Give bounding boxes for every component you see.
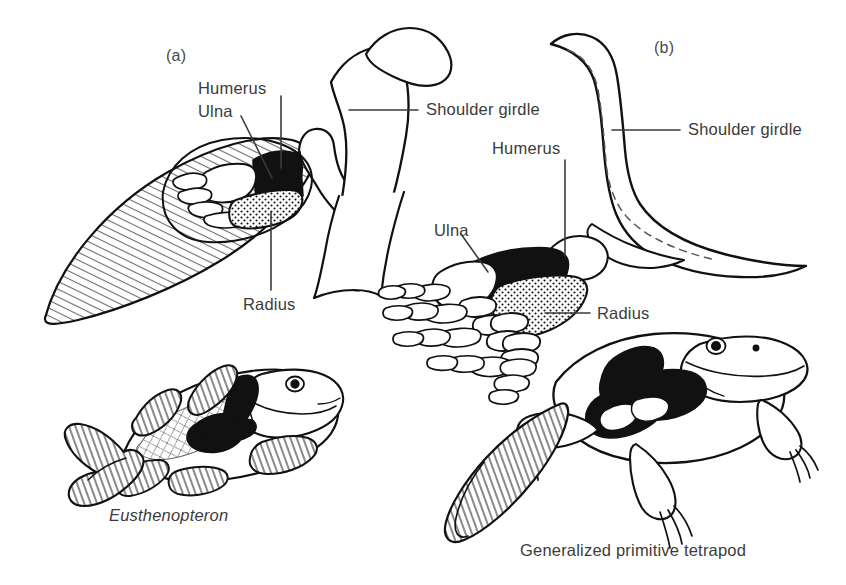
panel-letter-b: (b) bbox=[654, 40, 674, 56]
figure-root: (a) (b) Humerus Ulna Radius Shoulder gir… bbox=[0, 0, 846, 585]
eusthenopteron-whole-body bbox=[65, 365, 343, 506]
label-ulna-b: Ulna bbox=[434, 222, 469, 239]
label-shoulder-girdle-b: Shoulder girdle bbox=[688, 121, 802, 138]
label-shoulder-girdle-a: Shoulder girdle bbox=[426, 101, 540, 118]
anatomy-illustration bbox=[0, 0, 846, 585]
tetrapod-tail bbox=[445, 403, 568, 542]
caption-eusthenopteron: Eusthenopteron bbox=[109, 507, 228, 524]
digit-1 bbox=[378, 284, 449, 301]
fish-pupil bbox=[291, 380, 298, 387]
tetrapod-pupil bbox=[712, 342, 720, 350]
label-ulna-a: Ulna bbox=[198, 103, 233, 120]
girdle-flange-a bbox=[314, 192, 404, 298]
fish-pelvic-fin bbox=[169, 467, 228, 495]
label-humerus-a: Humerus bbox=[198, 80, 266, 97]
label-radius-b: Radius bbox=[597, 305, 650, 322]
digit-3 bbox=[393, 328, 481, 347]
digit-2 bbox=[383, 303, 467, 323]
label-radius-a: Radius bbox=[243, 296, 296, 313]
carpal-3 bbox=[491, 313, 528, 333]
digit-4 bbox=[427, 356, 512, 377]
tetrapod-nostril bbox=[754, 346, 759, 351]
panel-a-fin-skeleton bbox=[45, 28, 451, 324]
panel-letter-a: (a) bbox=[166, 48, 186, 64]
label-humerus-b: Humerus bbox=[492, 140, 560, 157]
caption-generalized-primitive-tetrapod: Generalized primitive tetrapod bbox=[520, 542, 746, 559]
